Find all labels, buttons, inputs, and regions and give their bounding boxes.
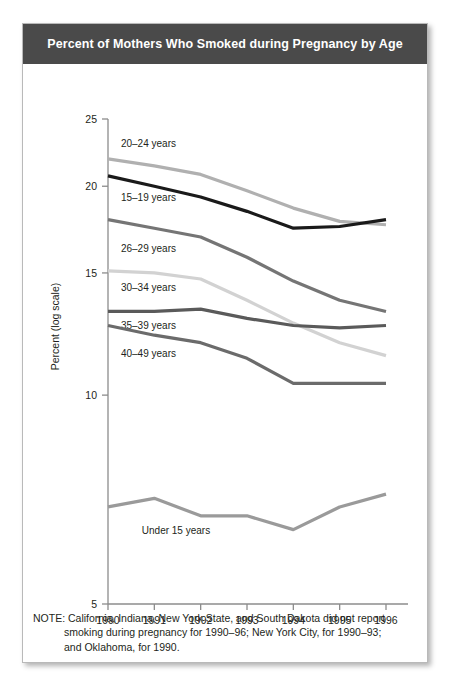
- line-chart: 5101520251990199119921993199419951996Per…: [23, 64, 429, 624]
- series-label: Under 15 years: [142, 525, 210, 536]
- series-label: 26–29 years: [121, 243, 176, 254]
- series-label: 15–19 years: [121, 192, 176, 203]
- y-axis-tick-label: 5: [91, 598, 97, 610]
- footnote-line-3: and Oklahoma, for 1990.: [64, 640, 419, 654]
- series-label: 40–49 years: [121, 348, 176, 359]
- footnote-line-2: smoking during pregnancy for 1990–96; Ne…: [64, 625, 419, 639]
- series-label: 20–24 years: [121, 138, 176, 149]
- y-axis-tick-label: 10: [85, 389, 97, 401]
- chart-footnote: NOTE: California, Indiana, New York Stat…: [33, 611, 419, 654]
- series-line: [108, 220, 386, 312]
- y-axis-tick-label: 25: [85, 113, 97, 125]
- figure-panel: Percent of Mothers Who Smoked during Pre…: [22, 23, 428, 663]
- chart-title-bar: Percent of Mothers Who Smoked during Pre…: [23, 24, 427, 64]
- footnote-line-1: NOTE: California, Indiana, New York Stat…: [33, 611, 419, 625]
- y-axis-tick-label: 15: [85, 267, 97, 279]
- series-label: 30–34 years: [121, 282, 176, 293]
- page-title: Percent of Mothers Who Smoked during Pre…: [47, 37, 403, 51]
- y-axis-title: Percent (log scale): [49, 283, 61, 371]
- plot-area: 5101520251990199119921993199419951996Per…: [23, 64, 427, 664]
- y-axis-tick-label: 20: [85, 180, 97, 192]
